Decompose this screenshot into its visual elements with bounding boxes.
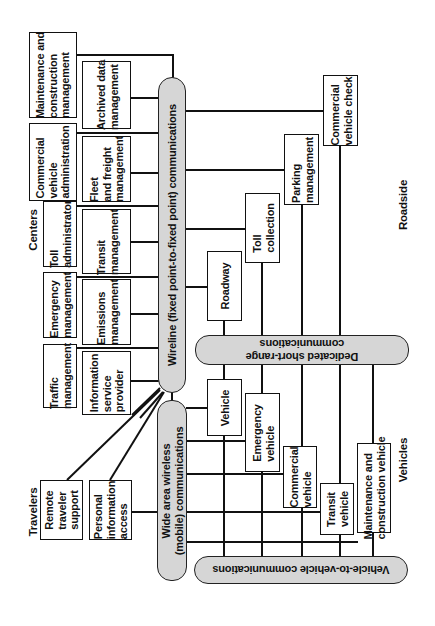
centers-label: Centers — [24, 205, 42, 255]
wide-area-wireless-bar: Wide area wireless (mobile) communicatio… — [157, 400, 187, 581]
vehicle-to-vehicle-bar: Vehicle-to-vehicle communications — [194, 556, 408, 584]
center-archived-data-mgmt: Archived data management — [82, 61, 131, 129]
center-traffic-management: Traffic management — [43, 344, 77, 408]
vehicle-maintenance-construction-vehicle: Maintenance and construction vehicle — [357, 443, 391, 533]
center-fleet-freight-mgmt: Fleet and freight management — [82, 136, 131, 202]
roadside-roadway: Roadway — [207, 251, 242, 321]
center-emergency-management: Emergency management — [43, 272, 77, 338]
vehicle-transit-vehicle: Transit vehicle — [320, 483, 354, 535]
center-commercial-vehicle-admin: Commercial vehicle administration — [29, 123, 77, 201]
its-architecture-diagram: Centers Travelers Roadside Vehicles Main… — [0, 0, 435, 626]
traveler-remote-traveler-support: Remote traveler support — [40, 480, 83, 540]
vehicle-emergency-vehicle: Emergency vehicle — [245, 393, 280, 472]
vehicles-label: Vehicles — [394, 435, 412, 485]
center-maintenance-construction-mgmt: Maintenance and construction management — [29, 32, 77, 118]
roadside-toll-collection: Toll collection — [245, 193, 280, 263]
wireline-communications-bar: Wireline (fixed point-to-fixed point) co… — [158, 77, 186, 393]
center-transit-management: Transit management — [82, 209, 131, 274]
center-toll-administrator: Toll administrator — [43, 201, 77, 267]
dsrc-communications-bar: Dedicated short-range communications — [195, 335, 409, 365]
traveler-personal-information-access: Personal information access — [89, 480, 132, 540]
roadside-label: Roadside — [394, 180, 412, 230]
vehicle-vehicle: Vehicle — [207, 379, 242, 436]
center-information-service-provider: Information service provider — [82, 351, 131, 415]
vehicle-commercial-vehicle: Commercial vehicle — [283, 446, 317, 508]
roadside-parking-management: Parking management — [284, 134, 319, 205]
center-emissions-management: Emissions management — [82, 279, 131, 345]
roadside-commercial-vehicle-check: Commercial vehicle check — [323, 75, 358, 146]
